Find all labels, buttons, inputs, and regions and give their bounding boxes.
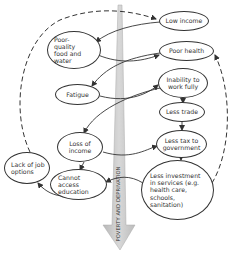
node-poor-health: Poor health	[159, 41, 214, 61]
node-label: Less trade	[166, 108, 198, 115]
node-fatigue: Fatigue	[55, 84, 100, 105]
node-loss-of-income: Loss of income	[57, 132, 103, 162]
node-label: Poor-quality food and water	[54, 36, 88, 65]
node-label: Lack of job options	[11, 161, 45, 175]
node-label: Less investment in services (e.g. health…	[150, 172, 208, 208]
node-label: Loss of income	[66, 140, 94, 154]
node-low-income: Low income	[159, 11, 209, 31]
node-label: Low income	[166, 17, 203, 24]
node-less-tax: Less tax to government	[156, 130, 207, 158]
node-less-trade: Less trade	[159, 102, 205, 122]
poverty-cycle-diagram: Low income Poor-quality food and water P…	[0, 0, 239, 256]
node-label: Poor health	[169, 47, 204, 54]
node-inability-to-work: Inability to work fully	[158, 68, 208, 98]
node-cannot-access-education: Cannot access education	[50, 169, 107, 200]
poverty-arrow-label: POVERTY AND DEPRIVATION	[115, 166, 121, 241]
node-lack-of-job-options: Lack of job options	[4, 152, 50, 184]
node-less-investment-in-services: Less investment in services (e.g. health…	[141, 160, 214, 220]
node-label: Fatigue	[66, 91, 89, 98]
node-label: Cannot access education	[58, 174, 102, 196]
edge-investment-to-poor-health	[212, 55, 227, 183]
edge-lack-job-to-low-income	[20, 11, 156, 152]
node-poor-quality-food: Poor-quality food and water	[47, 31, 101, 69]
node-label: Less tax to government	[163, 137, 201, 151]
node-label: Inability to work fully	[165, 76, 201, 90]
